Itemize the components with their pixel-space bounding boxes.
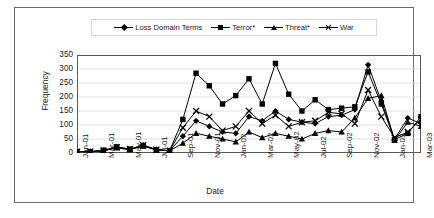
data-point	[273, 61, 278, 66]
x-marker-icon	[319, 24, 338, 32]
y-tick-label: 300	[47, 65, 73, 73]
legend-item-loss-domain-terms: Loss Domain Terms	[114, 23, 202, 32]
data-point	[233, 123, 239, 129]
data-point	[365, 69, 370, 74]
x-tick-label: May-01	[134, 131, 143, 158]
data-point	[365, 62, 371, 68]
data-point	[286, 116, 292, 122]
legend-item-threat: Threat*	[264, 23, 310, 32]
data-point	[180, 117, 185, 122]
x-tick-label: Mar-03	[425, 133, 434, 158]
y-tick-label: 50	[47, 135, 73, 143]
data-point	[220, 101, 225, 106]
plot-area	[77, 55, 421, 153]
legend-label: Terror*	[232, 23, 255, 32]
diamond-marker-icon	[114, 24, 133, 32]
data-point	[325, 127, 331, 133]
x-tick-label: Mar-01	[107, 133, 116, 158]
legend-item-terror: Terror*	[211, 23, 255, 32]
data-point	[286, 92, 291, 97]
data-point	[206, 114, 212, 120]
y-tick-label: 200	[47, 93, 73, 101]
y-tick-label: 100	[47, 121, 73, 129]
x-tick-label: Jan-01	[81, 134, 90, 158]
series-line	[77, 96, 421, 152]
x-tick-label: Sep-01	[186, 132, 195, 158]
data-point	[299, 108, 304, 113]
data-point	[206, 123, 212, 129]
legend-item-war: War	[319, 23, 354, 32]
data-point	[365, 87, 371, 93]
series-svg	[77, 55, 421, 153]
x-tick-label: Jan-02	[239, 134, 248, 158]
data-point	[352, 121, 358, 127]
data-point	[233, 93, 238, 98]
legend-label: Threat*	[285, 23, 310, 32]
chart-frame: Loss Domain Terms Terror* Threat* War Fr…	[14, 7, 414, 203]
x-tick-label: Sep-02	[345, 132, 354, 158]
data-point	[378, 114, 384, 120]
data-point	[246, 76, 251, 81]
x-tick-label: May-02	[292, 131, 301, 158]
legend-label: War	[340, 23, 354, 32]
y-tick-label: 150	[47, 107, 73, 115]
data-point	[352, 104, 357, 109]
data-point	[339, 106, 344, 111]
data-point	[260, 101, 265, 106]
x-axis-label: Date	[0, 186, 430, 196]
triangle-marker-icon	[264, 24, 283, 32]
legend-label: Loss Domain Terms	[135, 23, 202, 32]
y-tick-label: 0	[47, 149, 73, 157]
x-tick-label: Nov-02	[372, 132, 381, 158]
x-tick-label: Jul-01	[160, 136, 169, 158]
y-tick-label: 250	[47, 79, 73, 87]
data-point	[207, 83, 212, 88]
x-tick-label: Nov-01	[213, 132, 222, 158]
data-point	[193, 71, 198, 76]
x-tick-label: Mar-02	[266, 133, 275, 158]
x-tick-label: Jan-03	[398, 134, 407, 158]
data-point	[286, 123, 292, 129]
square-marker-icon	[211, 24, 230, 32]
x-tick-label: Jul-02	[319, 136, 328, 158]
chart-legend: Loss Domain Terms Terror* Threat* War	[91, 19, 377, 36]
y-tick-label: 350	[47, 51, 73, 59]
data-point	[312, 97, 317, 102]
data-point	[180, 125, 186, 131]
